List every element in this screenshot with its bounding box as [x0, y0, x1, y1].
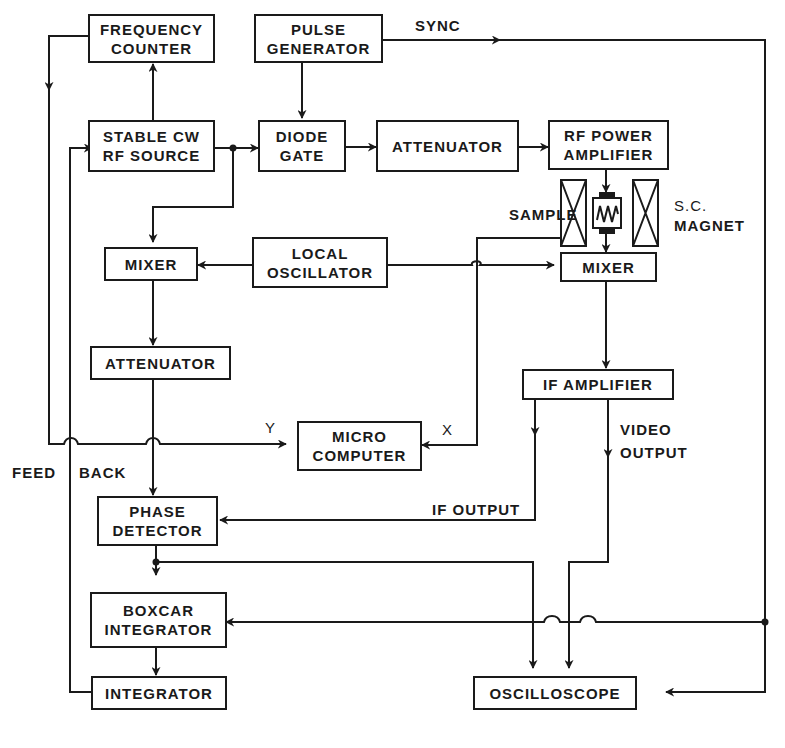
local-oscillator-block: LOCAL OSCILLATOR [252, 237, 388, 288]
micro-computer-label-2: COMPUTER [313, 446, 407, 465]
sc-magnet-label-2: MAGNET [674, 216, 745, 235]
stable-cw-rf-source-label-1: STABLE CW [103, 127, 200, 146]
rf-power-amplifier-label-2: AMPLIFIER [564, 145, 654, 164]
stable-cw-rf-source-label-2: RF SOURCE [103, 146, 200, 165]
micro-computer-block: MICRO COMPUTER [297, 421, 422, 471]
mixer-right-label: MIXER [582, 258, 635, 277]
video-output-label-1: VIDEO [620, 420, 672, 439]
frequency-counter-label-1: FREQUENCY [100, 20, 203, 39]
if-output-label: IF OUTPUT [432, 500, 520, 519]
attenuator-left-label: ATTENUATOR [105, 354, 216, 373]
boxcar-integrator-label-1: BOXCAR [123, 601, 194, 620]
diode-gate-block: DIODE GATE [258, 120, 346, 172]
integrator-block: INTEGRATOR [91, 676, 227, 710]
local-oscillator-label-1: LOCAL [292, 244, 349, 263]
phase-detector-label-2: DETECTOR [112, 521, 202, 540]
diode-gate-label-1: DIODE [276, 127, 329, 146]
attenuator-top-label: ATTENUATOR [392, 137, 503, 156]
pulse-generator-label-2: GENERATOR [267, 39, 370, 58]
boxcar-integrator-label-2: INTEGRATOR [105, 620, 213, 639]
oscilloscope-block: OSCILLOSCOPE [473, 676, 637, 710]
attenuator-top-block: ATTENUATOR [376, 120, 519, 172]
local-oscillator-label-2: OSCILLATOR [267, 263, 373, 282]
phase-detector-block: PHASE DETECTOR [97, 496, 218, 546]
mixer-left-label: MIXER [125, 255, 178, 274]
pulse-generator-block: PULSE GENERATOR [254, 14, 383, 63]
mixer-left-block: MIXER [104, 247, 198, 281]
boxcar-integrator-block: BOXCAR INTEGRATOR [90, 592, 227, 648]
back-label: BACK [79, 463, 126, 482]
attenuator-left-block: ATTENUATOR [90, 346, 231, 380]
rf-power-amplifier-label-1: RF POWER [564, 126, 653, 145]
sync-label: SYNC [415, 16, 461, 35]
sample-label: SAMPLE [509, 205, 578, 224]
if-amplifier-block: IF AMPLIFIER [522, 369, 674, 400]
mixer-right-block: MIXER [560, 252, 657, 282]
diode-gate-label-2: GATE [280, 146, 325, 165]
if-amplifier-label: IF AMPLIFIER [543, 375, 653, 394]
sc-magnet-label-1: S.C. [674, 196, 707, 215]
y-label: Y [265, 418, 276, 437]
phase-detector-label-1: PHASE [129, 502, 186, 521]
video-output-label-2: OUTPUT [620, 443, 688, 462]
frequency-counter-label-2: COUNTER [111, 39, 192, 58]
pulse-generator-label-1: PULSE [291, 20, 346, 39]
stable-cw-rf-source-block: STABLE CW RF SOURCE [88, 120, 215, 172]
x-label: X [442, 420, 453, 439]
rf-power-amplifier-block: RF POWER AMPLIFIER [548, 120, 669, 170]
oscilloscope-label: OSCILLOSCOPE [489, 684, 620, 703]
block-diagram: FREQUENCY COUNTER PULSE GENERATOR STABLE… [0, 0, 785, 748]
integrator-label: INTEGRATOR [105, 684, 213, 703]
frequency-counter-block: FREQUENCY COUNTER [88, 14, 215, 63]
micro-computer-label-1: MICRO [332, 427, 387, 446]
feed-label: FEED [12, 463, 56, 482]
